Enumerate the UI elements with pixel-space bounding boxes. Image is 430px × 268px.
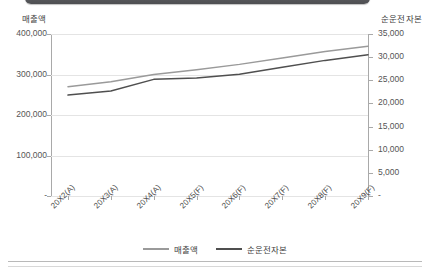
right-axis-tick-label: - — [378, 190, 381, 200]
window-titlebar-clipped — [25, 0, 370, 4]
legend-item[interactable]: 매출액 — [143, 243, 198, 255]
legend-line-swatch — [143, 248, 169, 250]
right-axis-tick-mark — [369, 57, 373, 58]
right-axis-tick-label: 25,000 — [378, 74, 404, 84]
right-axis-tick-label: 10,000 — [378, 144, 404, 154]
series-lines — [51, 34, 368, 196]
left-axis-tick-mark — [47, 156, 51, 157]
footer-divider-secondary — [8, 266, 422, 267]
legend-label: 매출액 — [174, 243, 198, 255]
right-axis-title: 순운전자본 — [381, 12, 422, 24]
chart-legend: 매출액순운전자본 — [0, 243, 430, 255]
right-axis-tick-mark — [369, 173, 373, 174]
right-axis-tick-label: 35,000 — [378, 28, 404, 38]
legend-line-swatch — [216, 248, 242, 250]
right-axis-tick-mark — [369, 196, 373, 197]
right-axis-tick-mark — [369, 127, 373, 128]
left-axis-tick-label: - — [44, 190, 47, 200]
left-axis-tick-mark — [47, 75, 51, 76]
left-axis-title: 매출액 — [22, 12, 47, 24]
right-axis-tick-label: 15,000 — [378, 121, 404, 131]
left-axis-tick-mark — [47, 34, 51, 35]
footer-divider — [8, 261, 422, 262]
left-axis-tick-label: 400,000 — [16, 28, 47, 38]
left-axis-tick-label: 200,000 — [16, 109, 47, 119]
right-axis-tick-label: 5,000 — [378, 167, 399, 177]
right-axis-tick-mark — [369, 150, 373, 151]
legend-label: 순운전자본 — [247, 243, 287, 255]
right-axis-tick-label: 30,000 — [378, 51, 404, 61]
left-axis-tick-mark — [47, 196, 51, 197]
right-axis-tick-label: 20,000 — [378, 97, 404, 107]
series-line — [68, 46, 368, 87]
right-axis-tick-mark — [369, 80, 373, 81]
left-axis-tick-label: 300,000 — [16, 69, 47, 79]
right-axis-tick-mark — [369, 103, 373, 104]
left-axis-tick-label: 100,000 — [16, 150, 47, 160]
left-axis-tick-mark — [47, 115, 51, 116]
legend-item[interactable]: 순운전자본 — [216, 243, 287, 255]
series-line — [68, 55, 368, 95]
chart-screenshot: 매출액 순운전자본 400,000300,000200,000100,000- … — [0, 0, 430, 268]
plot-area — [51, 34, 368, 196]
right-axis-tick-mark — [369, 34, 373, 35]
